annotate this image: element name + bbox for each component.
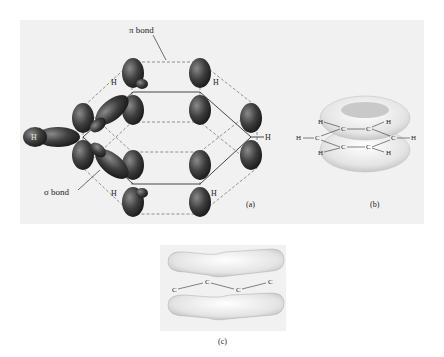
h-label: H bbox=[111, 78, 117, 87]
panel-a: H H H H H H π bond σ bond (a) bbox=[23, 25, 271, 217]
benzene-orbital-diagram: H H H H H H π bond σ bond (a) H H H H H … bbox=[0, 0, 444, 357]
c-label: C bbox=[341, 143, 346, 151]
c-label: C bbox=[391, 134, 396, 142]
carbon-bonds bbox=[178, 283, 266, 289]
panel-a-label: (a) bbox=[246, 200, 255, 209]
panel-c: C C C C (c) bbox=[168, 249, 284, 346]
c-label: C bbox=[315, 134, 320, 142]
h-label: H bbox=[265, 133, 271, 142]
h-label: H bbox=[211, 189, 217, 198]
sigma-bond-label: σ bond bbox=[44, 187, 70, 197]
c-label: C bbox=[268, 278, 273, 286]
pi-bond-label: π bond bbox=[129, 25, 154, 35]
c-label: C bbox=[236, 286, 241, 294]
pi-bond-arrow bbox=[153, 35, 166, 60]
h-label: H bbox=[386, 118, 391, 126]
c-label: C bbox=[172, 286, 177, 294]
h-label: H bbox=[386, 149, 391, 157]
panel-c-label: (c) bbox=[218, 337, 227, 346]
sigma-bond-arrow bbox=[78, 170, 100, 190]
panel-b: H H H H H H C C C C C C (b) bbox=[296, 96, 416, 209]
pi-overlap-dashes bbox=[83, 62, 257, 214]
h-label: H bbox=[411, 134, 416, 142]
h-label: H bbox=[318, 149, 323, 157]
h-label: H bbox=[111, 189, 117, 198]
h-label: H bbox=[31, 133, 37, 142]
h-label: H bbox=[318, 118, 323, 126]
p-orbital-lobes bbox=[72, 58, 262, 217]
h-label: H bbox=[213, 78, 219, 87]
h-label: H bbox=[296, 134, 301, 142]
c-label: C bbox=[366, 143, 371, 151]
c-label: C bbox=[205, 278, 210, 286]
panel-b-label: (b) bbox=[370, 200, 380, 209]
c-label: C bbox=[341, 125, 346, 133]
c-label: C bbox=[366, 125, 371, 133]
